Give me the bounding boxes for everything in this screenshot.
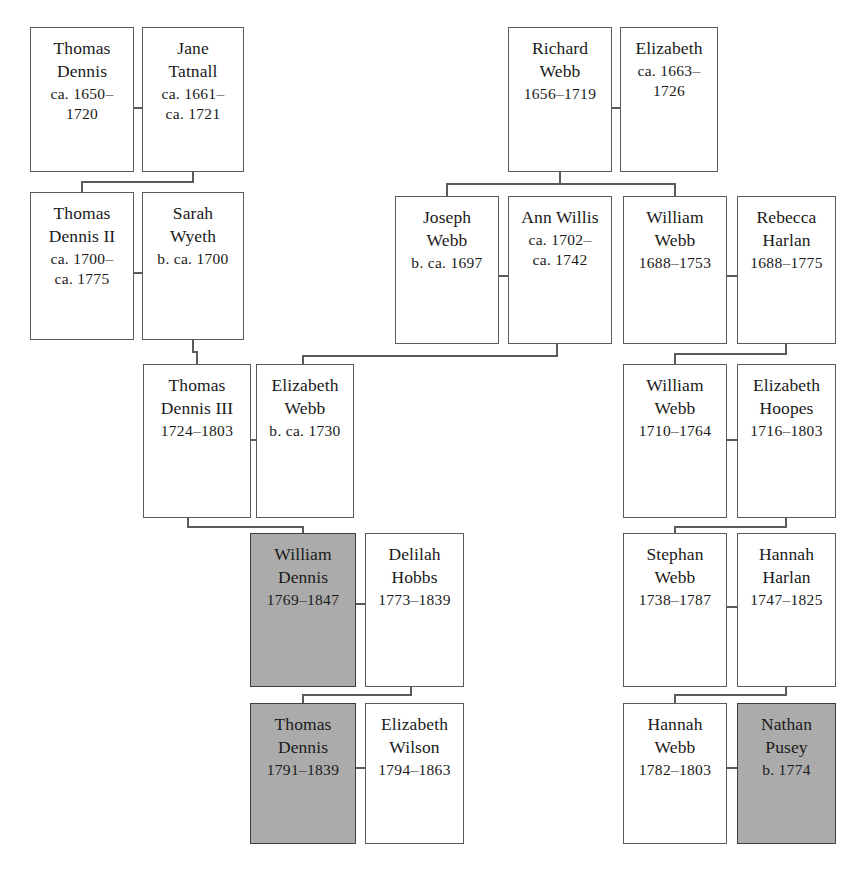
person-box-william-webb-1688[interactable]: WilliamWebb1688–1753 [623,196,727,344]
person-box-ann-willis[interactable]: Ann Willisca. 1702–ca. 1742 [508,196,612,344]
person-name-line: Wyeth [143,225,243,248]
person-dates: 1688–1775 [750,253,822,273]
person-box-elizabeth-webb[interactable]: ElizabethWebbb. ca. 1730 [256,364,354,518]
person-date-line: b. 1774 [762,760,811,780]
descent-link-d-to-hannahwebb [675,687,786,703]
person-date-line: 1710–1764 [639,421,711,441]
person-name-line: Elizabeth [257,374,353,397]
person-name-line: Wilson [366,736,463,759]
person-name-line: Dennis [251,566,355,589]
person-date-line: 1656–1719 [524,84,596,104]
person-dates: 1656–1719 [524,84,596,104]
person-date-line: ca. 1650– [51,84,114,104]
person-name-line: Thomas [31,37,133,60]
person-box-hannah-webb[interactable]: HannahWebb1782–1803 [623,703,727,844]
person-name-line: Stephan [624,543,726,566]
person-box-richard-webb[interactable]: RichardWebb1656–1719 [508,27,612,172]
person-box-jane-tatnall[interactable]: JaneTatnallca. 1661–ca. 1721 [142,27,244,172]
person-name-line: Webb [509,60,611,83]
person-box-delilah-hobbs[interactable]: DelilahHobbs1773–1839 [365,533,464,687]
person-box-thomas-dennis-iii[interactable]: ThomasDennis III1724–1803 [143,364,251,518]
person-dates: 1716–1803 [750,421,822,441]
person-date-line: b. ca. 1730 [269,421,340,441]
person-dates: 1782–1803 [639,760,711,780]
person-date-line: 1724–1803 [161,421,233,441]
person-box-rebecca-harlan[interactable]: RebeccaHarlan1688–1775 [737,196,836,344]
person-name-line: Dennis II [31,225,133,248]
descent-link-d-to-williamw1710 [675,344,786,364]
person-name-line: Webb [257,397,353,420]
person-name-line: Elizabeth [738,374,835,397]
descent-link-d-to-williamw1688 [560,172,675,196]
person-date-line: ca. 1721 [162,104,225,124]
descent-link-d-to-elizabeth-webb [303,344,557,364]
descent-link-d-to-william [188,518,303,533]
person-dates: 1794–1863 [378,760,450,780]
person-date-line: 1747–1825 [750,590,822,610]
person-date-line: 1720 [51,104,114,124]
person-date-line: ca. 1663– [638,61,701,81]
person-box-william-webb-1710[interactable]: WilliamWebb1710–1764 [623,364,727,518]
person-box-thomas-dennis-jr[interactable]: ThomasDennis1791–1839 [250,703,356,844]
person-name-line: Elizabeth [366,713,463,736]
person-name-line: Webb [396,229,498,252]
person-dates: ca. 1700–ca. 1775 [51,249,114,289]
person-box-thomas-dennis[interactable]: ThomasDennisca. 1650–1720 [30,27,134,172]
person-name-line: Elizabeth [621,37,717,60]
person-box-william-dennis[interactable]: WilliamDennis1769–1847 [250,533,356,687]
person-date-line: 1791–1839 [267,760,339,780]
person-date-line: ca. 1702– [529,230,592,250]
person-date-line: b. ca. 1697 [411,253,482,273]
person-name-line: Richard [509,37,611,60]
person-dates: b. ca. 1697 [411,253,482,273]
person-dates: 1710–1764 [639,421,711,441]
person-date-line: 1738–1787 [639,590,711,610]
person-dates: 1688–1753 [639,253,711,273]
person-name-line: Harlan [738,229,835,252]
person-dates: 1791–1839 [267,760,339,780]
person-name-line: William [251,543,355,566]
person-date-line: 1773–1839 [378,590,450,610]
person-name-line: Webb [624,397,726,420]
person-date-line: b. ca. 1700 [157,249,228,269]
person-dates: 1724–1803 [161,421,233,441]
person-box-thomas-dennis-ii[interactable]: ThomasDennis IIca. 1700–ca. 1775 [30,192,134,340]
person-name-line: Thomas [31,202,133,225]
person-name-line: Dennis [31,60,133,83]
person-name-line: Tatnall [143,60,243,83]
person-dates: 1769–1847 [267,590,339,610]
person-box-elizabeth[interactable]: Elizabethca. 1663–1726 [620,27,718,172]
person-box-elizabeth-hoopes[interactable]: ElizabethHoopes1716–1803 [737,364,836,518]
person-box-stephan-webb[interactable]: StephanWebb1738–1787 [623,533,727,687]
person-date-line: ca. 1661– [162,84,225,104]
person-name-line: Hobbs [366,566,463,589]
person-date-line: ca. 1775 [51,269,114,289]
person-date-line: 1716–1803 [750,421,822,441]
descent-link-d-to-joseph [447,172,560,196]
person-box-sarah-wyeth[interactable]: SarahWyethb. ca. 1700 [142,192,244,340]
person-name-line: Harlan [738,566,835,589]
person-date-line: 1769–1847 [267,590,339,610]
person-dates: 1773–1839 [378,590,450,610]
person-name-line: Rebecca [738,206,835,229]
person-date-line: ca. 1700– [51,249,114,269]
family-tree-chart: ThomasDennisca. 1650–1720JaneTatnallca. … [0,0,866,871]
person-name-line: William [624,374,726,397]
person-name-line: Webb [624,736,726,759]
person-name-line: Hoopes [738,397,835,420]
person-box-nathan-pusey[interactable]: NathanPuseyb. 1774 [737,703,836,844]
person-box-hannah-harlan[interactable]: HannahHarlan1747–1825 [737,533,836,687]
person-box-joseph-webb[interactable]: JosephWebbb. ca. 1697 [395,196,499,344]
descent-link-d-to-stephan [675,518,786,533]
person-date-line: ca. 1742 [529,250,592,270]
person-dates: ca. 1702–ca. 1742 [529,230,592,270]
person-name-line: Delilah [366,543,463,566]
person-name-line: William [624,206,726,229]
descent-link-d-to-thomasjr [303,687,411,703]
person-name-line: Jane [143,37,243,60]
person-name-line: Dennis III [144,397,250,420]
person-date-line: 1688–1753 [639,253,711,273]
person-name-line: Joseph [396,206,498,229]
person-box-elizabeth-wilson[interactable]: ElizabethWilson1794–1863 [365,703,464,844]
person-dates: ca. 1661–ca. 1721 [162,84,225,124]
